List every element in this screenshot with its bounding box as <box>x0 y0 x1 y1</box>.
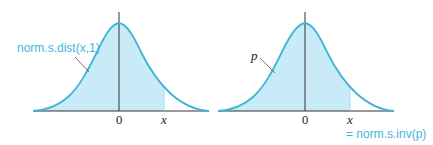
right-result-label: = norm.s.inv(p) <box>346 127 426 141</box>
right-p-label: p <box>250 48 258 63</box>
left-chart: norm.s.dist(x,1) 0 x <box>17 12 209 127</box>
right-zero-label: 0 <box>302 113 308 127</box>
right-shaded-area <box>218 23 350 111</box>
left-zero-label: 0 <box>116 113 122 127</box>
right-x-label: x <box>346 112 353 127</box>
left-leader-line <box>75 57 89 72</box>
right-chart: p 0 x = norm.s.inv(p) <box>218 12 426 141</box>
left-curve-label: norm.s.dist(x,1) <box>17 41 100 55</box>
normal-distribution-diagram: norm.s.dist(x,1) 0 x p 0 x = norm.s.inv(… <box>0 0 433 145</box>
left-x-label: x <box>160 112 167 127</box>
left-shaded-area <box>33 23 164 111</box>
right-leader-line <box>260 58 275 73</box>
